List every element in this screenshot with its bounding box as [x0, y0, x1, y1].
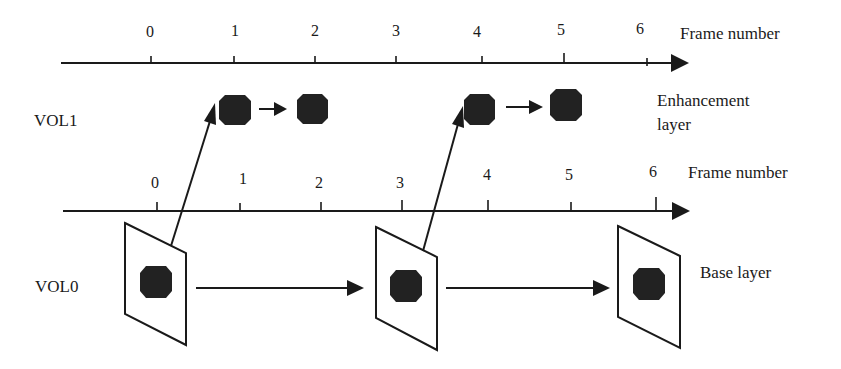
- bottom-tick-label-1: 1: [239, 171, 247, 187]
- base-frame-0: [125, 223, 186, 345]
- top-tick-label-4: 4: [473, 24, 481, 40]
- top-axis-title: Frame number: [680, 25, 780, 42]
- enhancement-layer-label-line2: layer: [657, 116, 691, 133]
- enh-frame-2-object: [297, 94, 328, 124]
- bottom-tick-label-4: 4: [483, 167, 491, 183]
- top-frame-axis: [61, 53, 689, 72]
- top-tick-label-3: 3: [392, 23, 400, 39]
- bottom-tick-label-2: 2: [315, 175, 323, 191]
- bottom-tick-label-5: 5: [565, 167, 573, 183]
- top-tick-label-0: 0: [146, 24, 154, 40]
- enh-frame-5-object: [550, 89, 582, 121]
- top-tick-label-5: 5: [557, 22, 565, 38]
- top-tick-label-2: 2: [311, 23, 319, 39]
- bottom-tick-label-6: 6: [649, 164, 657, 180]
- bottom-frame-axis: [63, 197, 690, 220]
- base-frame-6: [618, 226, 680, 348]
- top-tick-label-6: 6: [636, 21, 644, 37]
- bottom-tick-label-3: 3: [396, 175, 404, 191]
- enh-frame-1-object: [219, 95, 251, 125]
- top-tick-label-1: 1: [231, 23, 239, 39]
- enhancement-layer-label-line1: Enhancement: [657, 92, 750, 109]
- vol1-row-label: VOL1: [34, 112, 77, 129]
- enh-frame-4-object: [464, 94, 495, 125]
- axis-arrowhead-icon: [671, 54, 689, 72]
- vol0-row-label: VOL0: [35, 278, 78, 295]
- axis-arrowhead-icon: [672, 202, 690, 220]
- bottom-tick-label-0: 0: [151, 175, 159, 191]
- base-layer-label: Base layer: [700, 264, 771, 281]
- bottom-axis-title: Frame number: [688, 164, 788, 181]
- temporal-scalability-diagram: [0, 0, 841, 369]
- base-frame-3: [376, 227, 437, 350]
